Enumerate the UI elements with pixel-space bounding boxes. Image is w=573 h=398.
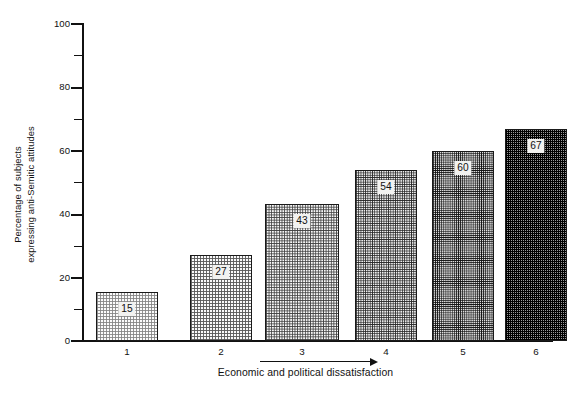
y-minor-tick-90	[74, 55, 82, 56]
bar-value-label-3: 43	[293, 214, 310, 228]
y-minor-tick-50	[74, 182, 82, 183]
y-minor-tick-70	[74, 119, 82, 120]
y-major-tick-60	[71, 150, 82, 152]
bar-value-label-4: 54	[377, 180, 394, 194]
y-axis-title-line1: Percentage of subjects	[12, 75, 25, 315]
x-tick-label-5: 5	[443, 346, 483, 358]
bar-texture-4	[356, 171, 416, 340]
y-tick-label-60: 60	[44, 146, 70, 156]
bar-texture-6	[506, 130, 566, 340]
y-tick-label-80: 80	[44, 82, 70, 92]
bar-value-label-5: 60	[454, 161, 471, 175]
x-axis-title-text: Economic and political dissatisfaction	[218, 367, 393, 378]
x-tick-label-6: 6	[516, 346, 556, 358]
y-tick-label-40: 40	[44, 209, 70, 219]
y-major-tick-80	[71, 87, 82, 89]
x-axis-direction-arrow-line	[260, 361, 372, 362]
bar-value-label-2: 27	[212, 265, 229, 279]
x-tick-label-4: 4	[366, 346, 406, 358]
y-minor-tick-10	[74, 309, 82, 310]
bar-category-5[interactable]: 60	[432, 151, 494, 341]
y-major-tick-20	[71, 277, 82, 279]
bar-category-1[interactable]: 15	[96, 292, 158, 341]
bar-category-3[interactable]: 43	[265, 204, 339, 341]
bar-category-4[interactable]: 54	[355, 170, 417, 341]
y-minor-tick-30	[74, 246, 82, 247]
y-tick-label-20: 20	[44, 273, 70, 283]
bar-category-6[interactable]: 67	[505, 129, 567, 341]
y-major-tick-0	[71, 340, 82, 342]
x-tick-label-2: 2	[201, 346, 241, 358]
bar-chart: Percentage of subjects expressing anti-S…	[0, 0, 573, 398]
y-axis-title-line2: expressing anti-Semitic attitudes	[24, 75, 37, 315]
y-tick-label-100: 100	[44, 19, 70, 29]
bar-value-label-1: 15	[118, 302, 135, 316]
x-tick-label-3: 3	[282, 346, 322, 358]
y-major-tick-100	[71, 23, 82, 25]
y-major-tick-40	[71, 214, 82, 216]
bar-category-2[interactable]: 27	[190, 255, 252, 341]
x-axis-title: Economic and political dissatisfaction	[0, 367, 573, 378]
bar-value-label-6: 67	[527, 139, 544, 153]
bar-texture-1	[97, 293, 157, 340]
bar-texture-5	[433, 152, 493, 340]
x-tick-label-1: 1	[107, 346, 147, 358]
y-tick-label-0: 0	[44, 336, 70, 346]
y-axis-title: Percentage of subjects expressing anti-S…	[0, 0, 46, 398]
x-axis-direction-arrow-head	[370, 358, 378, 366]
y-axis-line	[82, 23, 84, 341]
